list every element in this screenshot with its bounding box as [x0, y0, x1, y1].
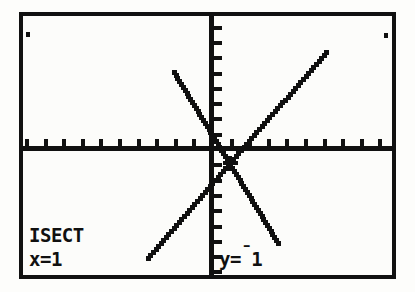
- y-coordinate-readout: y=¯1: [219, 250, 262, 269]
- function-line-y1: [172, 70, 281, 246]
- x-coordinate-readout: x=1: [29, 250, 62, 269]
- isect-mode-label: ISECT: [29, 226, 84, 245]
- x-axis: [23, 146, 392, 151]
- y-readout-prefix: y=: [219, 248, 241, 270]
- x-axis-ticks: [25, 139, 382, 147]
- calculator-screen: ISECT x=1 y=¯1: [0, 0, 415, 292]
- y-axis: [209, 16, 214, 275]
- y-readout-value: 1: [251, 248, 262, 270]
- function-line-y2: [146, 50, 329, 261]
- lcd-screen-frame: ISECT x=1 y=¯1: [19, 12, 396, 279]
